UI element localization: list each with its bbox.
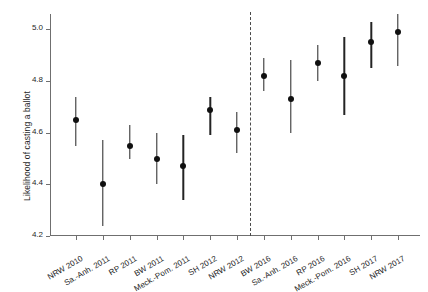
data-point[interactable]	[341, 73, 347, 79]
x-tick-label: RP 2011	[107, 254, 138, 277]
x-axis-line	[50, 235, 420, 236]
y-tick-label: 4.4	[32, 178, 43, 187]
data-point[interactable]	[315, 60, 321, 66]
data-point[interactable]	[100, 181, 106, 187]
y-axis-line	[50, 14, 51, 236]
y-tick-label: 5.0	[32, 23, 43, 32]
data-point[interactable]	[261, 73, 267, 79]
x-tick	[291, 236, 292, 240]
x-tick	[264, 236, 265, 240]
x-tick	[130, 236, 131, 240]
x-tick	[237, 236, 238, 240]
x-tick	[157, 236, 158, 240]
data-point[interactable]	[73, 117, 79, 123]
data-point[interactable]	[288, 96, 294, 102]
confidence-interval-bar	[209, 97, 210, 136]
y-tick: 4.4	[46, 184, 50, 185]
x-tick	[371, 236, 372, 240]
x-tick	[210, 236, 211, 240]
confidence-interval-bar	[397, 14, 398, 66]
y-tick: 4.6	[46, 133, 50, 134]
data-point[interactable]	[180, 163, 186, 169]
y-axis-title: Likelihood of casting a ballot	[18, 0, 36, 292]
x-tick	[183, 236, 184, 240]
y-tick-label: 4.6	[32, 127, 43, 136]
data-point[interactable]	[234, 127, 240, 133]
data-point[interactable]	[154, 156, 160, 162]
figure-canvas: Likelihood of casting a ballot 4.24.44.6…	[0, 0, 428, 292]
y-tick-label: 4.8	[32, 75, 43, 84]
plot-area: 4.24.44.64.85.0 NRW 2010Sa.-Anh. 2011RP …	[50, 14, 420, 236]
data-point[interactable]	[127, 143, 133, 149]
y-tick-label: 4.2	[32, 230, 43, 239]
x-tick	[344, 236, 345, 240]
y-tick: 4.8	[46, 81, 50, 82]
y-tick: 4.2	[46, 236, 50, 237]
data-point[interactable]	[395, 29, 401, 35]
x-tick	[318, 236, 319, 240]
data-point[interactable]	[368, 39, 374, 45]
x-tick	[103, 236, 104, 240]
group-divider-line	[250, 12, 251, 236]
x-tick	[398, 236, 399, 240]
x-tick	[76, 236, 77, 240]
data-point[interactable]	[207, 107, 213, 113]
y-tick: 5.0	[46, 29, 50, 30]
